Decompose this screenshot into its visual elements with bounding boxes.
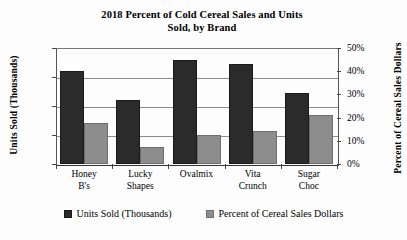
category-tick-mark [337, 164, 338, 169]
x-axis-category-label-line-2: B's [56, 181, 112, 193]
bar-percent-sales [309, 115, 333, 164]
legend-swatch-units-sold [64, 210, 72, 218]
left-axis-title: Units Sold (Thousands) [9, 45, 19, 165]
right-axis-tick-mark [337, 118, 341, 119]
bar-units-sold [116, 100, 140, 164]
bar-units-sold [173, 60, 197, 164]
legend-label: Percent of Cereal Sales Dollars [219, 208, 344, 219]
right-axis-tick-mark [337, 48, 341, 49]
right-axis-tick-label: 50% [347, 43, 387, 53]
x-axis-category-label-line-2: Shapes [112, 181, 168, 193]
right-axis-tick-mark [337, 71, 341, 72]
chart-title-line-1: 2018 Percent of Cold Cereal Sales and Un… [101, 9, 302, 20]
right-axis-tick-label: 30% [347, 89, 387, 99]
bar-percent-sales [253, 131, 277, 164]
x-axis-category-label-line-2: Choc [281, 181, 337, 193]
bar-chart: 2018 Percent of Cold Cereal Sales and Un… [0, 0, 407, 240]
gridline [57, 78, 338, 79]
right-axis-tick-label: 40% [347, 66, 387, 76]
left-axis-tick-mark [52, 135, 56, 136]
legend-swatch-percent-sales [206, 210, 214, 218]
bar-percent-sales [140, 147, 164, 164]
right-axis-tick-mark [337, 141, 341, 142]
x-axis-category-label-line-1: Sugar [298, 169, 320, 179]
x-axis-category-label-line-1: Lucky [128, 169, 152, 179]
right-axis-title: Percent of Cereal Sales Dollars [393, 23, 403, 193]
x-axis-category-label: VitaCrunch [225, 169, 281, 192]
right-axis-tick-label: 10% [347, 136, 387, 146]
x-axis-category-label: SugarChoc [281, 169, 337, 192]
chart-legend: Units Sold (Thousands)Percent of Cereal … [0, 208, 407, 219]
bar-units-sold [285, 93, 309, 164]
bar-percent-sales [197, 135, 221, 164]
bar-units-sold [229, 64, 253, 164]
legend-label: Units Sold (Thousands) [77, 208, 172, 219]
x-axis-category-label-line-2: Crunch [225, 181, 281, 193]
x-axis-category-label-line-1: Vita [245, 169, 261, 179]
left-axis-tick-mark [52, 48, 56, 49]
bar-percent-sales [84, 123, 108, 164]
legend-item: Units Sold (Thousands) [64, 208, 172, 219]
x-axis-category-label-line-1: Honey [71, 169, 96, 179]
right-axis-tick-label: 0% [347, 159, 387, 169]
x-axis-category-label: Ovalmix [168, 169, 224, 181]
right-axis-tick-label: 20% [347, 113, 387, 123]
legend-item: Percent of Cereal Sales Dollars [206, 208, 344, 219]
x-axis-category-label: HoneyB's [56, 169, 112, 192]
x-axis-category-label-line-1: Ovalmix [180, 169, 213, 179]
right-axis-tick-mark [337, 94, 341, 95]
left-axis-tick-mark [52, 106, 56, 107]
chart-title-line-2: Sold, by Brand [46, 21, 358, 34]
x-axis-category-label: LuckyShapes [112, 169, 168, 192]
left-axis-tick-mark [52, 77, 56, 78]
chart-title: 2018 Percent of Cold Cereal Sales and Un… [46, 8, 358, 34]
bar-units-sold [60, 71, 84, 164]
